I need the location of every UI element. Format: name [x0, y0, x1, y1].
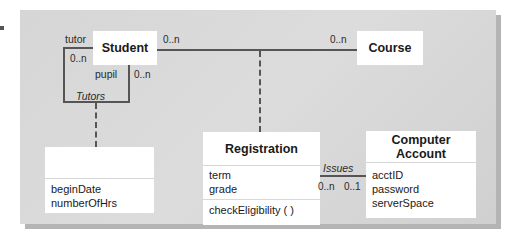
student-course-association — [157, 49, 357, 51]
tutors-loop-left — [63, 47, 65, 103]
multiplicity-pupil: 0..n — [134, 69, 151, 80]
registration-class-link — [259, 51, 261, 132]
multiplicity-course-side: 0..n — [330, 34, 347, 45]
class-course-name: Course — [357, 31, 423, 65]
class-registration-attributes: term grade — [203, 165, 320, 199]
class-course[interactable]: Course — [357, 31, 423, 65]
attribute: serverSpace — [372, 196, 470, 210]
multiplicity-student-side: 0..n — [163, 34, 180, 45]
tutors-loop-top — [63, 47, 93, 49]
class-registration-operations: checkEligibility ( ) — [203, 199, 320, 219]
class-student[interactable]: Student — [93, 31, 157, 65]
class-registration-name: Registration — [203, 132, 320, 165]
issues-association — [320, 175, 366, 177]
attribute: numberOfHrs — [51, 196, 148, 210]
class-computer-account-attributes: acctID password serverSpace — [366, 162, 476, 212]
attribute: acctID — [372, 168, 470, 182]
class-tutors-name — [45, 147, 154, 178]
multiplicity-account-side: 0..1 — [344, 181, 361, 192]
multiplicity-tutor: 0..n — [70, 53, 87, 64]
class-tutors-attributes: beginDate numberOfHrs — [45, 178, 154, 212]
multiplicity-registration-side: 0..n — [318, 181, 335, 192]
association-name-tutors: Tutors — [76, 90, 105, 102]
role-pupil: pupil — [95, 68, 117, 80]
class-student-name: Student — [93, 31, 157, 65]
operation: checkEligibility ( ) — [209, 203, 314, 217]
class-computer-account-name: Computer Account — [366, 131, 476, 162]
class-tutors[interactable]: beginDate numberOfHrs — [45, 147, 154, 213]
attribute: password — [372, 182, 470, 196]
attribute: beginDate — [51, 182, 148, 196]
association-name-issues: Issues — [323, 162, 353, 174]
attribute: term — [209, 168, 314, 182]
tutors-loop-right — [128, 65, 130, 103]
edge-fragment — [0, 26, 4, 30]
class-registration[interactable]: Registration term grade checkEligibility… — [203, 132, 320, 225]
tutors-class-link — [95, 103, 97, 147]
role-tutor: tutor — [65, 33, 86, 45]
class-computer-account[interactable]: Computer Account acctID password serverS… — [366, 131, 476, 218]
attribute: grade — [209, 182, 314, 196]
